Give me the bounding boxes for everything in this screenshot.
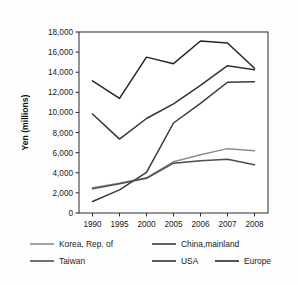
legend-label-europe: Europe [244,256,271,266]
y-tick-label: 12,000 [48,88,73,97]
chart-figure: 02,0004,0006,0008,00010,00012,00014,0001… [0,0,298,285]
x-tick-label: 2005 [164,220,183,229]
x-tick-label: 2008 [245,220,264,229]
x-tick-label: 1990 [83,220,102,229]
legend-label-china-mainland: China,mainland [181,239,240,249]
legend-label-taiwan: Taiwan [59,256,85,266]
line-chart: 02,0004,0006,0008,00010,00012,00014,0001… [0,0,298,285]
y-tick-label: 18,000 [48,28,73,37]
y-tick-label: 6,000 [53,149,74,158]
y-tick-label: 2,000 [53,189,74,198]
y-tick-label: 0 [68,209,73,218]
y-tick-label: 16,000 [48,48,73,57]
x-tick-label: 1995 [110,220,129,229]
x-tick-label: 2000 [137,220,156,229]
legend-label-korea-rep-of: Korea, Rep. of [59,239,114,249]
x-tick-label: 2007 [218,220,237,229]
y-tick-label: 4,000 [53,169,74,178]
y-tick-label: 10,000 [48,108,73,117]
y-axis-title: Yen (millions) [20,94,30,150]
y-tick-label: 14,000 [48,68,73,77]
y-tick-label: 8,000 [53,129,74,138]
legend-label-usa: USA [181,256,199,266]
x-tick-label: 2006 [191,220,210,229]
